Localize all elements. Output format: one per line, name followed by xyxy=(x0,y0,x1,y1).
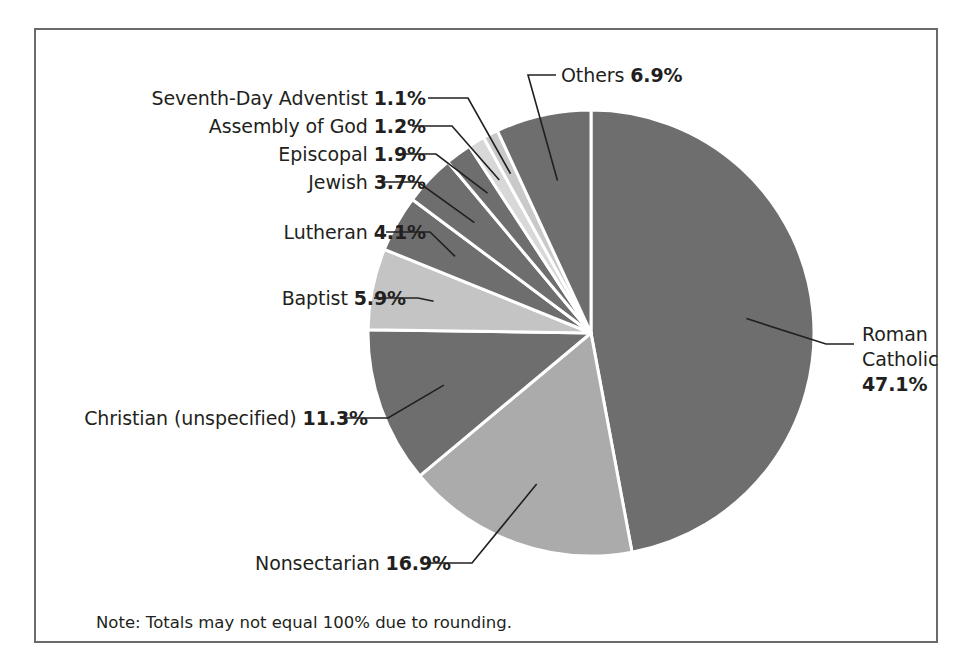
label-assembly-of-god-name: Assembly of God xyxy=(209,115,368,137)
label-nonsectarian: Nonsectarian 16.9% xyxy=(166,552,451,575)
label-lutheran-pct: 4.1% xyxy=(374,221,426,243)
label-assembly-of-god: Assembly of God 1.2% xyxy=(116,115,426,138)
label-episcopal: Episcopal 1.9% xyxy=(116,143,426,166)
label-seventh-day-adventist: Seventh-Day Adventist 1.1% xyxy=(116,87,426,110)
label-episcopal-pct: 1.9% xyxy=(374,143,426,165)
chart-page: Seventh-Day Adventist 1.1% Assembly of G… xyxy=(0,0,971,665)
label-lutheran: Lutheran 4.1% xyxy=(116,221,426,244)
label-baptist-pct: 5.9% xyxy=(354,287,406,309)
label-roman-catholic-line1: Roman xyxy=(862,322,952,347)
label-nonsectarian-pct: 16.9% xyxy=(386,552,451,574)
label-roman-catholic-line2: Catholic xyxy=(862,347,952,372)
chart-frame: Seventh-Day Adventist 1.1% Assembly of G… xyxy=(34,28,938,643)
label-roman-catholic-pct: 47.1% xyxy=(862,372,952,397)
label-christian-unspecified-name: Christian (unspecified) xyxy=(84,407,296,429)
pie-slices-group xyxy=(368,110,814,556)
label-others-pct: 6.9% xyxy=(630,64,682,86)
label-lutheran-name: Lutheran xyxy=(284,221,368,243)
label-seventh-day-adventist-pct: 1.1% xyxy=(374,87,426,109)
label-baptist: Baptist 5.9% xyxy=(96,287,406,310)
label-roman-catholic: Roman Catholic 47.1% xyxy=(862,322,952,397)
label-christian-unspecified: Christian (unspecified) 11.3% xyxy=(36,407,368,430)
chart-note: Note: Totals may not equal 100% due to r… xyxy=(96,613,512,632)
label-others: Others 6.9% xyxy=(561,64,683,87)
label-jewish: Jewish 3.7% xyxy=(116,171,426,194)
pie-slice-roman-catholic[interactable] xyxy=(591,110,814,552)
label-episcopal-name: Episcopal xyxy=(278,143,367,165)
label-jewish-name: Jewish xyxy=(308,171,367,193)
label-jewish-pct: 3.7% xyxy=(374,171,426,193)
label-baptist-name: Baptist xyxy=(282,287,348,309)
label-nonsectarian-name: Nonsectarian xyxy=(255,552,380,574)
label-assembly-of-god-pct: 1.2% xyxy=(374,115,426,137)
label-christian-unspecified-pct: 11.3% xyxy=(303,407,368,429)
label-seventh-day-adventist-name: Seventh-Day Adventist xyxy=(151,87,367,109)
label-others-name: Others xyxy=(561,64,624,86)
